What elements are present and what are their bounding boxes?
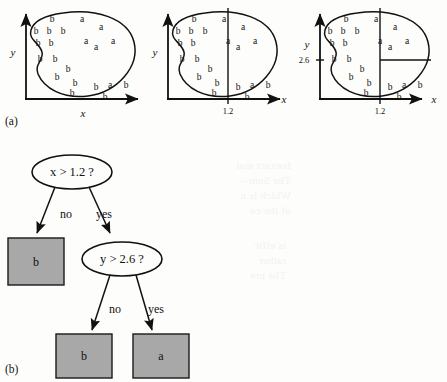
- panel-2-point-b-9: b: [197, 72, 202, 82]
- panel-3-point-b-4: b: [330, 38, 335, 48]
- panel-b-label: (b): [5, 363, 19, 376]
- panel-1-point-b-3: b: [61, 26, 66, 36]
- panel-3: bbbbbbbbbbbbbbbaaaaaa y x 2.6 1.2: [299, 8, 437, 116]
- tree-edge-root-no: [37, 187, 55, 233]
- panel-2-point-a-0: a: [222, 14, 227, 24]
- panel-1-point-b-2: b: [47, 26, 52, 36]
- panel-1-point-b-6: b: [38, 54, 43, 64]
- panel-2-point-b-7: b: [195, 54, 200, 64]
- panel-3-cluster-outline: [325, 12, 429, 97]
- panel-2-point-a-3: a: [236, 42, 241, 52]
- panel-3-point-b-1: b: [328, 26, 333, 36]
- panel-2-point-b-0: b: [192, 14, 197, 24]
- panel-2-xtick-label: 1.2: [223, 106, 234, 116]
- panel-2-point-b-1: b: [176, 26, 181, 36]
- panel-3-point-b-3: b: [355, 26, 360, 36]
- panel-2-point-b-5: b: [191, 38, 196, 48]
- panel-3-ytick-label: 2.6: [299, 55, 310, 65]
- panel-2-point-b-14: b: [266, 80, 271, 90]
- panel-1-point-a-4: a: [111, 36, 116, 46]
- panel-3-point-a-4: a: [405, 36, 410, 46]
- panel-1: bbbbbbbbbbbbbbbaaaaaa y x: [10, 12, 138, 119]
- panel-3-point-b-8: b: [360, 64, 365, 74]
- panel-1-point-b-8: b: [66, 64, 71, 74]
- panel-2-point-b-10: b: [215, 78, 220, 88]
- panel-1-point-a-2: a: [84, 36, 89, 46]
- panel-1-point-b-14: b: [124, 80, 129, 90]
- panel-1-point-b-7: b: [53, 54, 58, 64]
- panel-1-point-b-13: b: [103, 92, 108, 102]
- tree-edge-label-no-2: no: [109, 302, 121, 316]
- panel-1-y-axis-label: y: [10, 46, 16, 58]
- panel-1-cluster-outline: [31, 12, 135, 97]
- panel-3-point-b-5: b: [343, 38, 348, 48]
- panel-1-point-b-10: b: [73, 78, 78, 88]
- panel-1-point-a-5: a: [108, 80, 113, 90]
- panel-3-point-b-12: b: [388, 82, 393, 92]
- panel-1-point-b-11: b: [70, 88, 75, 98]
- panel-2-y-axis-label: y: [152, 46, 158, 58]
- panel-2-point-b-3: b: [203, 26, 208, 36]
- panel-2-point-b-6: b: [180, 54, 185, 64]
- panel-2-point-b-2: b: [189, 26, 194, 36]
- tree-node-root-label: x > 1.2 ?: [50, 165, 94, 179]
- panel-1-point-a-3: a: [94, 42, 99, 52]
- panel-3-point-b-0: b: [344, 14, 349, 24]
- panel-2-point-b-13: b: [245, 92, 250, 102]
- panel-1-points: bbbbbbbbbbbbbbbaaaaaa: [34, 14, 129, 102]
- panel-1-point-b-12: b: [94, 82, 99, 92]
- panel-2-point-a-4: a: [253, 36, 258, 46]
- panel-2-point-b-8: b: [208, 64, 213, 74]
- tree-leaf-b-left-label: b: [33, 255, 39, 269]
- tree-edge-label-no-1: no: [60, 207, 72, 221]
- panel-3-point-b-11: b: [364, 88, 369, 98]
- panel-1-point-a-0: a: [80, 14, 85, 24]
- panel-3-point-b-14: b: [418, 80, 423, 90]
- panel-3-point-a-0: a: [374, 14, 379, 24]
- panel-1-x-axis-label: x: [80, 107, 86, 119]
- decision-tree: x > 1.2 ? no yes b y > 2.6 ? no yes b: [8, 155, 189, 378]
- panel-3-point-b-6: b: [332, 54, 337, 64]
- figure-root: Inexact mat The Sum-- Which is n of the …: [0, 0, 447, 382]
- figure-canvas: bbbbbbbbbbbbbbbaaaaaa y x bbbbbbbbbbbbbb…: [0, 0, 447, 382]
- panel-1-point-a-1: a: [99, 22, 104, 32]
- panel-3-xtick-label: 1.2: [375, 106, 386, 116]
- tree-leaf-a-bottom-label: a: [158, 349, 164, 363]
- panel-2-point-b-12: b: [236, 82, 241, 92]
- panel-1-point-b-4: b: [36, 38, 41, 48]
- tree-edge-label-yes-2: yes: [148, 302, 164, 316]
- panel-3-point-b-13: b: [397, 92, 402, 102]
- panel-3-point-b-9: b: [349, 72, 354, 82]
- panel-3-points: bbbbbbbbbbbbbbbaaaaaa: [328, 14, 423, 102]
- panel-3-point-b-2: b: [341, 26, 346, 36]
- panel-a-label: (a): [5, 115, 18, 128]
- panel-2-point-b-11: b: [212, 88, 217, 98]
- panel-3-point-a-1: a: [393, 22, 398, 32]
- panel-3-point-b-7: b: [347, 54, 352, 64]
- panel-2-cluster-outline: [173, 12, 277, 97]
- panel-3-point-b-10: b: [367, 78, 372, 88]
- panel-3-point-a-3: a: [388, 42, 393, 52]
- panel-1-point-b-1: b: [34, 26, 39, 36]
- panel-3-point-a-5: a: [402, 80, 407, 90]
- panel-2: bbbbbbbbbbbbbbbaaaaaa y x 1.2: [152, 8, 287, 116]
- panel-2-x-axis-label: x: [281, 93, 287, 105]
- panel-3-y-axis-label: y: [304, 38, 310, 50]
- tree-edge-child-no: [92, 275, 110, 330]
- panel-1-point-b-0: b: [50, 14, 55, 24]
- panel-2-point-a-5: a: [250, 80, 255, 90]
- tree-leaf-b-bottom-label: b: [81, 349, 87, 363]
- tree-node-child-label: y > 2.6 ?: [100, 252, 144, 266]
- panel-2-points: bbbbbbbbbbbbbbbaaaaaa: [176, 14, 271, 102]
- panel-3-point-a-2: a: [378, 36, 383, 46]
- panel-1-point-b-5: b: [49, 38, 54, 48]
- panel-1-point-b-9: b: [55, 72, 60, 82]
- panel-2-point-a-2: a: [226, 36, 231, 46]
- panel-2-point-a-1: a: [241, 22, 246, 32]
- tree-edge-label-yes-1: yes: [96, 207, 112, 221]
- panel-2-point-b-4: b: [178, 38, 183, 48]
- panel-3-x-axis-label: x: [431, 93, 437, 105]
